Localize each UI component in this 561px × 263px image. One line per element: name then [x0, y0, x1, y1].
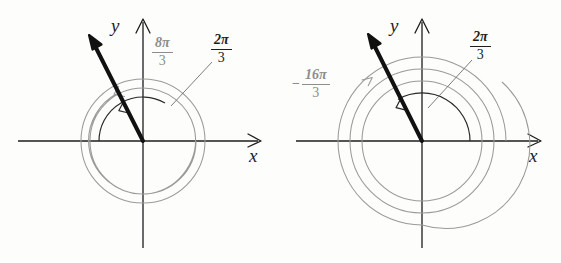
right-panel-graphics: [280, 0, 561, 263]
y-axis-label: y: [111, 16, 119, 35]
coterminal-arc-arrowhead: [362, 78, 372, 86]
coterminal-denominator: 3: [302, 85, 330, 101]
coterminal-angle-label: 8π 3: [152, 36, 173, 68]
principal-denominator: 3: [211, 50, 232, 66]
principal-numerator: 2π: [211, 33, 232, 50]
x-axis-label: x: [249, 146, 257, 165]
principal-angle-label: 2π 3: [211, 33, 232, 65]
coterminal-numerator: 8π: [152, 36, 173, 53]
principal-label-leader: [171, 62, 212, 106]
terminal-ray: [89, 35, 143, 141]
coterminal-angle-label: − 16π 3: [292, 68, 330, 100]
x-axis-label: x: [529, 146, 537, 165]
angle-diagram-right: y x − 16π 3 2π 3: [280, 0, 561, 263]
coterminal-numerator: 16π: [302, 68, 330, 85]
coterminal-denominator: 3: [152, 53, 173, 69]
principal-denominator: 3: [470, 47, 491, 63]
principal-angle-label: 2π 3: [470, 30, 491, 62]
terminal-ray: [368, 34, 422, 141]
y-axis-label: y: [390, 16, 398, 35]
coterminal-sign: −: [292, 77, 302, 92]
figure-canvas: y x 8π 3 2π 3: [0, 0, 561, 263]
angle-diagram-left: y x 8π 3 2π 3: [0, 0, 280, 263]
principal-numerator: 2π: [470, 30, 491, 47]
left-panel-graphics: [0, 0, 280, 263]
